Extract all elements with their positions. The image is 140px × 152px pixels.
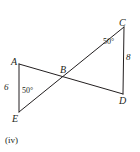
angle-label-at-c: 50° (103, 38, 114, 46)
vertex-label-d: D (119, 96, 126, 106)
angle-label-at-e: 50° (22, 87, 33, 95)
segment-CD (123, 27, 124, 94)
vertex-label-c: C (119, 18, 126, 28)
segment-AD (19, 64, 123, 94)
side-length-ae: 6 (4, 83, 9, 92)
vertex-label-b: B (60, 65, 66, 75)
vertex-label-e: E (12, 114, 18, 124)
geometry-figure: A B C D E 6 8 50° 50° (iv) (0, 0, 140, 152)
figure-caption: (iv) (5, 136, 18, 145)
vertex-label-a: A (11, 57, 17, 67)
side-length-cd: 8 (126, 53, 131, 62)
